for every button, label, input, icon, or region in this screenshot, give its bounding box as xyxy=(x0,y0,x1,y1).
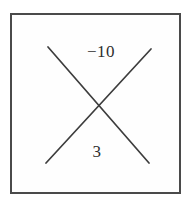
x-diagram-top-value: −10 xyxy=(79,43,123,60)
x-diagram-bottom-value: 3 xyxy=(85,143,109,160)
x-diagram-cross xyxy=(0,0,191,206)
